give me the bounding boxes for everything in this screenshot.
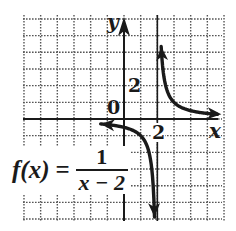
origin-label: 0: [107, 98, 120, 117]
formula-denominator: x − 2: [79, 172, 125, 194]
formula-numerator: 1: [96, 146, 107, 168]
y-tick-label-2: 2: [128, 76, 141, 95]
formula-equals: =: [55, 156, 69, 184]
x-tick-label-2: 2: [152, 123, 165, 142]
function-formula: f(x) = 1 x − 2: [10, 146, 130, 194]
x-axis-label: x: [209, 121, 221, 141]
formula-lhs: f(x): [12, 156, 49, 184]
formula-fraction: 1 x − 2: [76, 146, 128, 194]
y-axis-label: y: [107, 12, 119, 32]
